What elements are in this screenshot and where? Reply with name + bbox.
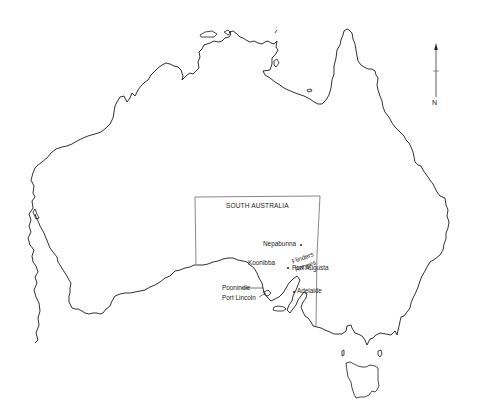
tasmania	[346, 362, 379, 398]
cobourg-islet	[224, 30, 231, 35]
flinders-island	[378, 350, 382, 357]
adelaide-marker-icon	[293, 291, 295, 293]
place-label-poonindie: Poonindie	[222, 285, 250, 291]
place-label-port-lincoln: Port Lincoln	[222, 295, 256, 301]
place-label-port-augusta: Port Augusta	[292, 265, 329, 271]
port-lincoln-bay-detail	[264, 290, 271, 296]
nepabunna-marker-icon	[300, 244, 302, 246]
region-label-south-australia: SOUTH AUSTRALIA	[226, 202, 289, 209]
wessel-island	[275, 30, 277, 33]
wellesley-islands	[307, 89, 312, 92]
port-augusta-marker-icon	[287, 267, 289, 269]
place-label-nepabunna: Nepabunna	[263, 241, 296, 247]
north-arrow-head-icon	[434, 43, 438, 50]
place-label-koonibba: Koonibba	[248, 260, 275, 266]
place-label-adelaide: Adelaide	[297, 288, 322, 294]
kangaroo-island	[273, 306, 286, 311]
sa-west-border	[195, 197, 196, 264]
sa-north-border	[195, 196, 320, 197]
groote-eylandt	[274, 59, 279, 67]
tiwi-islands	[200, 31, 217, 37]
king-island	[342, 350, 344, 356]
north-label: N	[432, 99, 437, 106]
sa-east-border	[316, 196, 320, 326]
